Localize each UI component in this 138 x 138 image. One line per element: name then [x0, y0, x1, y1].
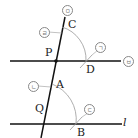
- leader-s2: [38, 86, 51, 87]
- step-6-marker: ㅂ: [123, 56, 134, 67]
- point-c-label: C: [68, 19, 76, 30]
- point-b-label: B: [77, 127, 85, 138]
- point-a-label: A: [56, 79, 64, 90]
- line-l-label: l: [123, 117, 127, 128]
- leader-s4: [48, 32, 62, 33]
- point-p-dot: [54, 59, 58, 63]
- step-4-marker: ㄹ: [39, 27, 50, 38]
- arc-cd: [62, 27, 86, 61]
- point-p-label: P: [45, 47, 52, 58]
- point-q-label: Q: [35, 103, 44, 114]
- step-3-marker: ㄷ: [84, 104, 95, 115]
- step-2-marker: ㄴ: [28, 81, 39, 92]
- step-1-marker: ㄱ: [95, 42, 106, 53]
- point-d-label: D: [86, 64, 95, 75]
- step-5-marker: ㅁ: [62, 5, 73, 16]
